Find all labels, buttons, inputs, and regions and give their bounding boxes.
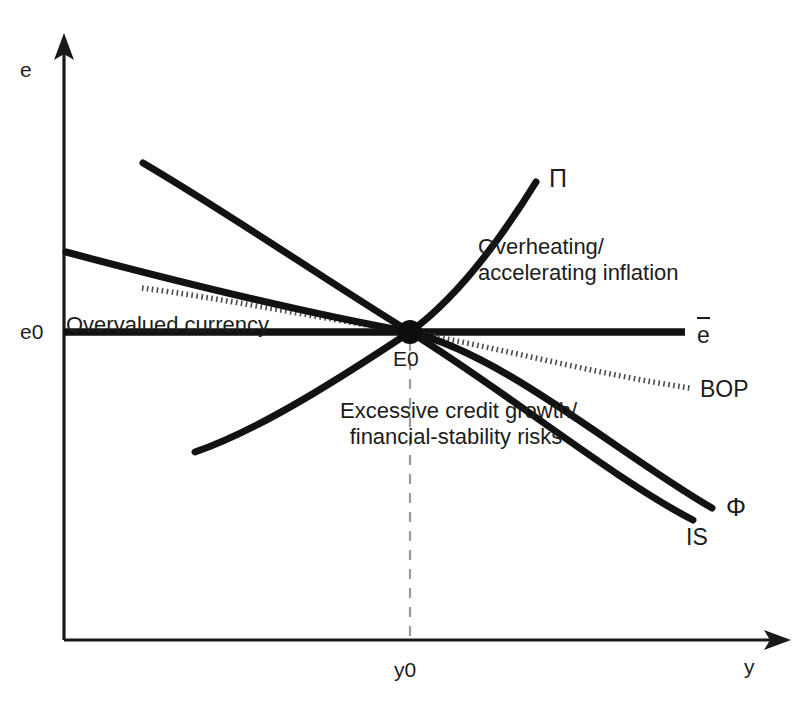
curve-label-ebar: e	[697, 316, 710, 349]
annotation-overheating: Overheating/ accelerating inflation	[478, 234, 679, 286]
ebar-overline-wrapper: e	[697, 316, 710, 349]
x-tick-label-y0: y0	[394, 658, 416, 683]
annotation-overheating-line1: Overheating/	[478, 234, 604, 259]
annotation-overheating-line2: accelerating inflation	[478, 260, 679, 285]
annotation-credit-line2: financial-stability risks	[350, 424, 563, 449]
y-axis-label: e	[20, 58, 32, 83]
diagram-canvas: e e0 y y0 E0 Π Φ IS BOP e Overvalued cur…	[0, 0, 810, 713]
annotation-credit-growth: Excessive credit growth/ financial-stabi…	[340, 398, 572, 450]
x-axis-label: y	[744, 655, 755, 680]
y-tick-label-e0: e0	[20, 320, 43, 345]
curve-label-is: IS	[686, 524, 708, 551]
annotation-credit-line1: Excessive credit growth/	[340, 398, 577, 423]
curve-label-phi: Φ	[726, 493, 746, 523]
ebar-character: e	[697, 317, 710, 349]
annotation-overvalued-currency: Overvalued currency	[66, 312, 269, 338]
equilibrium-label-e0: E0	[393, 347, 419, 372]
curve-label-bop: BOP	[700, 376, 749, 403]
ebar-overline	[697, 317, 710, 319]
curve-is	[143, 163, 693, 520]
curves-group	[64, 163, 712, 520]
curve-label-pi: Π	[549, 164, 567, 194]
equilibrium-point-dot	[398, 320, 422, 344]
